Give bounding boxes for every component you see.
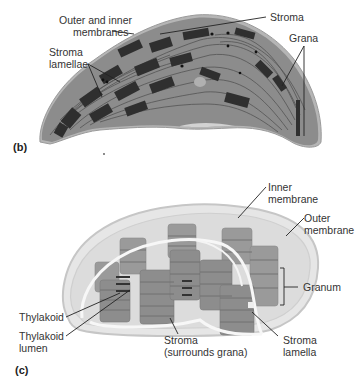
label-line: Granum: [303, 281, 341, 293]
label-stroma-c: Stroma (surrounds grana): [164, 334, 247, 358]
panel-tag-c: (c): [15, 364, 28, 376]
label-thylakoid: Thylakoid: [19, 311, 64, 323]
label-line: Thylakoid: [19, 330, 64, 342]
label-line: Stroma: [283, 334, 317, 346]
label-line: lamellae: [49, 58, 88, 70]
label-line: lamella: [283, 346, 317, 358]
label-stroma-lamella: Stroma lamella: [283, 334, 317, 358]
label-granum: Granum: [303, 281, 341, 293]
label-line: membranes: [59, 26, 132, 38]
label-line: Stroma: [49, 46, 88, 58]
label-line: Stroma: [164, 334, 247, 346]
label-line: (surrounds grana): [164, 346, 247, 358]
label-thylakoid-lumen: Thylakoid lumen: [19, 330, 64, 354]
panel-tag-b: (b): [13, 141, 27, 153]
label-line: lumen: [19, 342, 64, 354]
label-line: Thylakoid: [19, 311, 64, 323]
label-line: Stroma: [270, 11, 304, 23]
label-line: membrane: [268, 193, 318, 205]
label-grana: Grana: [289, 32, 318, 44]
label-stroma-lamellae: Stroma lamellae: [49, 46, 88, 70]
label-line: Grana: [289, 32, 318, 44]
label-outer-membrane: Outer membrane: [304, 212, 354, 236]
label-stroma-b: Stroma: [270, 11, 304, 23]
label-line: Inner: [268, 181, 318, 193]
label-line: membrane: [304, 224, 354, 236]
label-line: Outer and inner: [59, 14, 132, 26]
label-inner-membrane: Inner membrane: [268, 181, 318, 205]
label-outer-inner-membranes: Outer and inner membranes: [59, 14, 132, 38]
label-line: Outer: [304, 212, 354, 224]
